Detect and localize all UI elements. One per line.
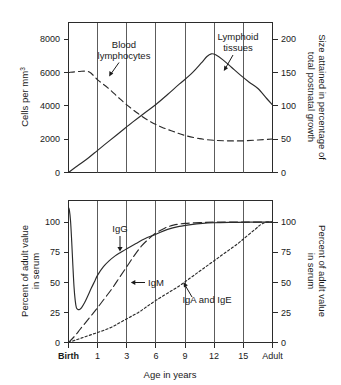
top-y2tick-0: 0	[281, 168, 286, 178]
annotation-igg-arrow	[117, 247, 122, 252]
annotation-iga-ige-label: IgA and IgE	[182, 294, 231, 305]
bottom-xtick-birth: Birth	[58, 351, 79, 361]
annotation-lymphoid-tissues-line1: Lymphoid	[218, 31, 259, 42]
top-ytick-6000: 6000	[40, 68, 60, 78]
annotation-blood-lymphocytes: Blood lymphocytes	[98, 39, 151, 76]
annotation-igg-label: IgG	[112, 223, 127, 234]
annotation-igm-label: IgM	[148, 277, 164, 288]
top-y2tick-100: 100	[281, 101, 296, 111]
curve-blood-lymphocytes	[69, 71, 273, 141]
bottom-chart: 100 75 50 25 0 100 75 50 25 0 Percent of…	[19, 201, 328, 381]
curve-igg	[69, 208, 273, 310]
annotation-iga-ige: IgA and IgE	[182, 282, 231, 305]
bottom-xtick-3: 3	[124, 351, 129, 361]
bottom-y2tick-25: 25	[281, 308, 291, 318]
top-chart: 8000 6000 4000 2000 0 200 150 100 50 0 C…	[19, 23, 329, 178]
top-left-ticks	[64, 39, 69, 172]
top-y2-axis-title-line1: Size attained in percentage of	[317, 34, 328, 160]
annotation-blood-lymphocytes-line2: lymphocytes	[98, 50, 151, 61]
top-right-ticks	[273, 39, 278, 172]
bottom-y2-axis-title-line2: in serum	[306, 253, 317, 290]
bottom-y2-axis-title-line1: Percent of adult value	[317, 225, 328, 317]
svg-text:Cells per mm3: Cells per mm3	[19, 67, 31, 127]
annotation-igg: IgG	[112, 223, 127, 252]
bottom-y-axis-title-line1: Percent of adult value	[19, 225, 30, 317]
bottom-right-ticks	[273, 222, 278, 342]
top-ytick-0: 0	[55, 168, 60, 178]
bottom-ytick-50: 50	[50, 278, 60, 288]
bottom-y2tick-0: 0	[281, 338, 286, 348]
bottom-xtick-12: 12	[209, 351, 219, 361]
top-ytick-8000: 8000	[40, 34, 60, 44]
top-ytick-4000: 4000	[40, 101, 60, 111]
top-ytick-2000: 2000	[40, 134, 60, 144]
bottom-left-ticks	[64, 222, 69, 342]
bottom-y2tick-75: 75	[281, 247, 291, 257]
top-y2-axis-title-line2: total postnatal growth	[306, 52, 317, 142]
bottom-y2tick-100: 100	[281, 217, 296, 227]
top-y2tick-150: 150	[281, 68, 296, 78]
dual-chart-svg: 8000 6000 4000 2000 0 200 150 100 50 0 C…	[0, 0, 341, 385]
bottom-ytick-25: 25	[50, 308, 60, 318]
top-y2tick-50: 50	[281, 134, 291, 144]
annotation-lymphoid-tissues: Lymphoid tissues	[218, 31, 259, 71]
bottom-x-axis-title: Age in years	[144, 369, 197, 380]
annotation-lymphoid-tissues-line2: tissues	[223, 42, 253, 53]
curve-iga-and-ige	[69, 222, 273, 343]
annotation-blood-lymphocytes-line1: Blood	[112, 39, 136, 50]
top-y-axis-title: Cells per mm3	[19, 67, 31, 127]
annotation-lymphoid-tissues-arrow	[224, 66, 228, 72]
bottom-xtick-6: 6	[153, 351, 158, 361]
top-y2tick-200: 200	[281, 34, 296, 44]
bottom-y-axis-title: Percent of adult value in serum	[19, 225, 41, 317]
bottom-xticks	[69, 343, 273, 348]
bottom-y-axis-title-line2: in serum	[30, 253, 41, 290]
bottom-xtick-15: 15	[238, 351, 248, 361]
bottom-ytick-0: 0	[55, 338, 60, 348]
bottom-ytick-100: 100	[45, 217, 60, 227]
top-y2-axis-title: Size attained in percentage of total pos…	[306, 34, 328, 160]
top-y-axis-title-superscript: 3	[19, 67, 26, 71]
bottom-xtick-adult: Adult	[262, 351, 283, 361]
bottom-y2-axis-title: Percent of adult value in serum	[306, 225, 328, 317]
annotation-igm: IgM	[131, 277, 164, 288]
top-y-axis-title-main: Cells per mm	[19, 71, 30, 127]
curve-lymphoid-tissues	[69, 54, 273, 173]
bottom-ytick-75: 75	[50, 247, 60, 257]
figure-container: 8000 6000 4000 2000 0 200 150 100 50 0 C…	[0, 0, 341, 385]
annotation-igm-arrow	[131, 280, 136, 285]
bottom-xtick-9: 9	[182, 351, 187, 361]
bottom-y2tick-50: 50	[281, 278, 291, 288]
bottom-xtick-1: 1	[95, 351, 100, 361]
